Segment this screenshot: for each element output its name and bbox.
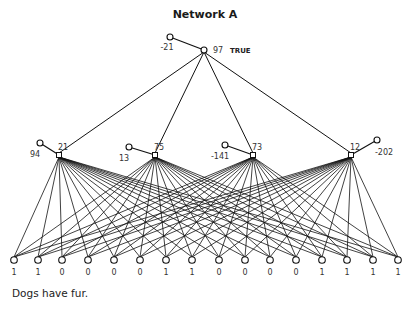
input-node-15 <box>370 257 377 264</box>
input-value-5: 0 <box>111 268 116 277</box>
output-bias-node <box>167 34 173 40</box>
hidden-activation-2: 75 <box>154 143 164 152</box>
diagram-title: Network A <box>173 8 238 21</box>
hidden-activation-1: 21 <box>58 143 68 152</box>
input-value-12: 0 <box>293 268 298 277</box>
hidden-bias-node-4 <box>374 137 380 143</box>
input-node-11 <box>267 257 274 264</box>
output-verdict: TRUE <box>230 47 251 55</box>
hidden-output-connections <box>59 52 351 153</box>
hidden-bias-node-1 <box>37 140 43 146</box>
input-node-10 <box>242 257 249 264</box>
output-bias-value: -21 <box>160 43 173 52</box>
hidden-node-4 <box>349 153 354 158</box>
input-node-12 <box>293 257 300 264</box>
input-value-1: 1 <box>11 268 16 277</box>
hidden-node-2 <box>153 153 158 158</box>
input-node-9 <box>216 257 223 264</box>
hidden-activation-4: 12 <box>350 143 360 152</box>
hidden-bias-1: 94 <box>30 150 40 159</box>
input-value-10: 0 <box>242 268 247 277</box>
input-node-3 <box>59 257 66 264</box>
input-value-13: 1 <box>319 268 324 277</box>
input-node-2 <box>35 257 42 264</box>
nodes <box>11 34 402 263</box>
hidden-activation-3: 73 <box>252 143 262 152</box>
hidden-bias-node-2 <box>126 144 132 150</box>
hidden-bias-2: 13 <box>119 154 129 163</box>
input-value-16: 1 <box>395 268 400 277</box>
output-activation: 97 <box>213 46 223 55</box>
output-node <box>201 47 207 53</box>
input-value-14: 1 <box>344 268 349 277</box>
input-node-8 <box>189 257 196 264</box>
input-value-8: 1 <box>189 268 194 277</box>
input-node-6 <box>137 257 144 264</box>
hidden-node-1 <box>57 153 62 158</box>
input-node-13 <box>319 257 326 264</box>
input-value-3: 0 <box>59 268 64 277</box>
hidden-bias-3: -141 <box>211 152 229 161</box>
input-node-16 <box>395 257 402 264</box>
hidden-node-3 <box>251 153 256 158</box>
input-value-2: 1 <box>35 268 40 277</box>
input-value-15: 1 <box>370 268 375 277</box>
input-node-5 <box>111 257 118 264</box>
input-hidden-connections <box>14 157 398 257</box>
input-value-6: 0 <box>137 268 142 277</box>
input-value-4: 0 <box>85 268 90 277</box>
network-diagram: Network A -2197TRUE2194751373-14112-2021… <box>0 0 411 309</box>
input-value-7: 1 <box>163 268 168 277</box>
input-sentence-caption: Dogs have fur. <box>12 287 88 299</box>
input-node-1 <box>11 257 18 264</box>
hidden-bias-node-3 <box>222 142 228 148</box>
input-node-4 <box>85 257 92 264</box>
hidden-bias-4: -202 <box>375 148 393 157</box>
input-node-14 <box>344 257 351 264</box>
input-value-9: 0 <box>216 268 221 277</box>
input-node-7 <box>163 257 170 264</box>
input-value-11: 0 <box>267 268 272 277</box>
